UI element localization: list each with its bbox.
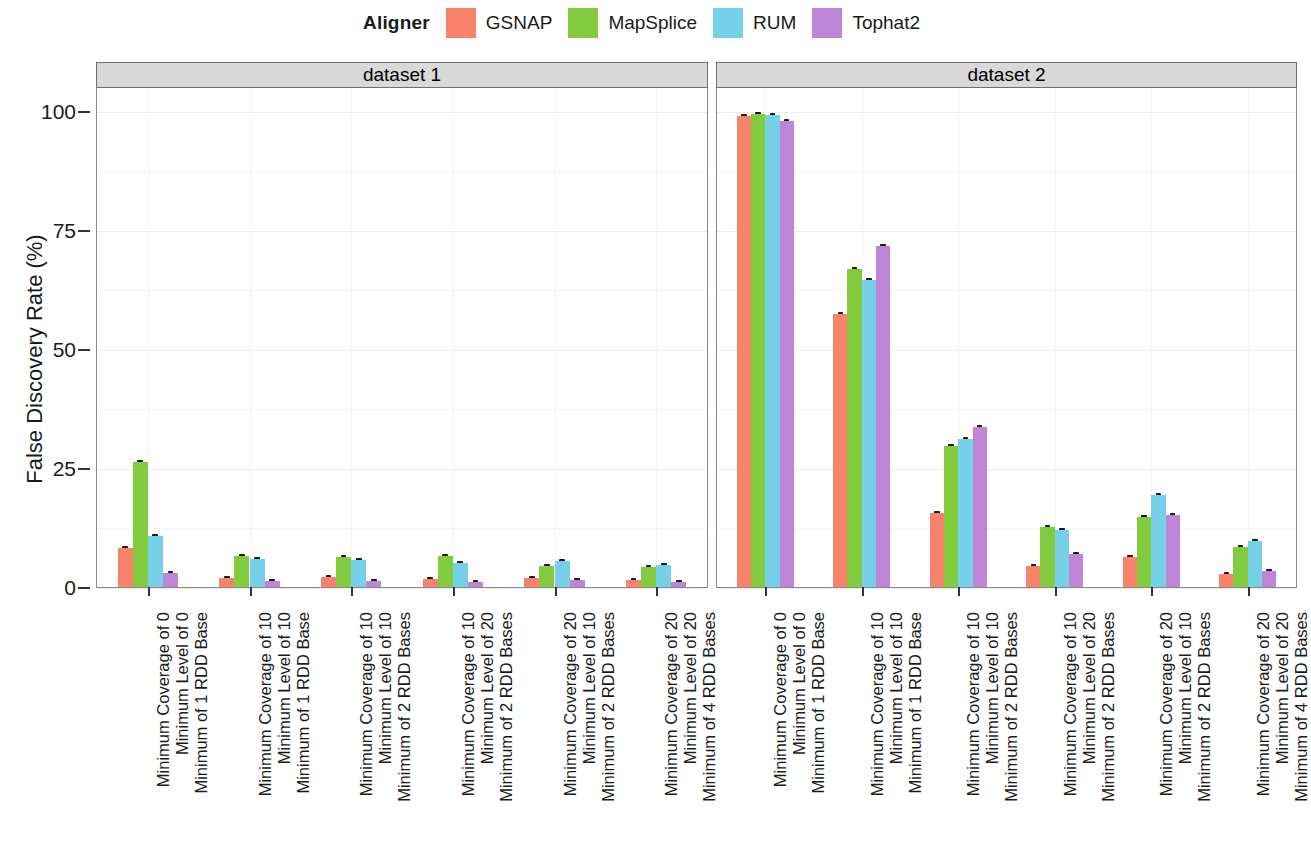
legend-title: Aligner	[363, 12, 430, 34]
x-axis-label-line: Minimum Coverage of 10	[868, 612, 887, 859]
bar-tophat2-5	[1262, 571, 1276, 587]
x-axis-label-1-4: Minimum Coverage of 20Minimum Level of 1…	[1157, 612, 1214, 859]
bar-mapsplice-2	[944, 446, 958, 587]
x-axis-label-line: Minimum Level of 20	[1080, 612, 1099, 859]
x-axis-label-0-4: Minimum Coverage of 20Minimum Level of 1…	[561, 612, 618, 859]
x-tick-mark-3	[453, 587, 455, 596]
x-axis-label-line: Minimum Level of 20	[478, 612, 497, 859]
x-axis-label-line: Minimum Level of 10	[275, 612, 294, 859]
x-tick-mark-0	[765, 587, 767, 596]
bar-mapsplice-5	[641, 567, 656, 587]
legend-label-mapsplice: MapSplice	[608, 12, 697, 34]
bar-gsnap-2	[930, 513, 944, 587]
x-axis-label-line: Minimum Coverage of 10	[357, 612, 376, 859]
bar-gsnap-5	[1219, 574, 1233, 587]
y-tick-mark-50	[78, 349, 90, 351]
y-tick-mark-0	[78, 587, 90, 589]
panel-dataset-1: dataset 1	[96, 46, 708, 606]
bar-rum-2	[351, 560, 366, 587]
gridline-x-5	[656, 88, 657, 587]
gridline-x-2	[351, 88, 352, 587]
x-axis-label-line: Minimum Coverage of 10	[964, 612, 983, 859]
x-axis-label-line: Minimum of 2 RDD Bases	[395, 612, 414, 859]
gridline-y-minor-87.5	[717, 171, 1296, 172]
panel-body-dataset-2	[716, 88, 1297, 588]
gridline-y-minor-37.5	[717, 409, 1296, 410]
legend-entry-gsnap[interactable]: GSNAP	[446, 8, 553, 38]
chart: False Discovery Rate (%) 0255075100 data…	[0, 46, 1299, 859]
x-axis-label-line: Minimum Coverage of 20	[662, 612, 681, 859]
x-axis-label-line: Minimum Level of 10	[887, 612, 906, 859]
x-tick-mark-1	[862, 587, 864, 596]
facet-panels: dataset 1 dataset 2	[96, 46, 1297, 606]
bar-mapsplice-2	[336, 557, 351, 587]
x-tick-mark-2	[351, 587, 353, 596]
bar-tophat2-5	[671, 582, 686, 587]
gridline-y-50	[97, 350, 707, 351]
x-axis-label-line: Minimum Coverage of 0	[154, 612, 173, 859]
gridline-x-3	[453, 88, 454, 587]
bar-rum-2	[958, 439, 972, 587]
bar-rum-5	[656, 565, 671, 587]
x-axis-label-line: Minimum Coverage of 10	[1061, 612, 1080, 859]
bar-tophat2-4	[570, 580, 585, 587]
x-axis-label-line: Minimum of 2 RDD Bases	[1002, 612, 1021, 859]
legend-entry-mapsplice[interactable]: MapSplice	[568, 8, 697, 38]
x-axis-label-1-1: Minimum Coverage of 10Minimum Level of 1…	[868, 612, 925, 859]
legend-swatch-tophat2	[812, 8, 842, 38]
bar-gsnap-4	[1123, 557, 1137, 587]
y-tick-label-100: 100	[41, 100, 76, 124]
x-axis-label-line: Minimum of 1 RDD Base	[809, 612, 828, 859]
bar-mapsplice-3	[1040, 527, 1054, 587]
bar-tophat2-2	[973, 427, 987, 587]
y-tick-mark-100	[78, 111, 90, 113]
x-axis-label-0-0: Minimum Coverage of 0Minimum Level of 0M…	[154, 612, 211, 859]
x-axis-label-0-1: Minimum Coverage of 10Minimum Level of 1…	[256, 612, 313, 859]
bar-gsnap-2	[321, 577, 336, 587]
x-axis-label-1-2: Minimum Coverage of 10Minimum Level of 1…	[964, 612, 1021, 859]
bar-rum-4	[1151, 495, 1165, 587]
bar-gsnap-0	[737, 116, 751, 587]
bar-tophat2-2	[366, 581, 381, 587]
x-axis-label-1-3: Minimum Coverage of 10Minimum Level of 2…	[1061, 612, 1118, 859]
bar-rum-1	[250, 559, 265, 587]
y-axis-ticks: 0255075100	[0, 46, 96, 606]
y-tick-mark-75	[78, 230, 90, 232]
gridline-y-75	[717, 231, 1296, 232]
panel-dataset-2: dataset 2	[716, 46, 1297, 606]
bar-mapsplice-3	[438, 556, 453, 587]
legend: Aligner GSNAP MapSplice RUM Tophat2	[0, 0, 1299, 46]
x-axis-label-line: Minimum Level of 0	[790, 612, 809, 859]
bar-tophat2-3	[468, 582, 483, 587]
x-axis-label-line: Minimum Level of 10	[580, 612, 599, 859]
panel-strip-dataset-2: dataset 2	[716, 62, 1297, 88]
x-axis-label-line: Minimum Coverage of 10	[459, 612, 478, 859]
gridline-y-minor-37.5	[97, 409, 707, 410]
legend-swatch-gsnap	[446, 8, 476, 38]
bar-gsnap-0	[118, 548, 133, 587]
plot-area-dataset-2	[717, 88, 1296, 587]
bar-gsnap-4	[524, 578, 539, 587]
x-tick-mark-0	[148, 587, 150, 596]
x-axis-label-line: Minimum of 2 RDD Bases	[599, 612, 618, 859]
gridline-y-0	[97, 588, 707, 589]
x-tick-mark-5	[1248, 587, 1250, 596]
gridline-x-0	[148, 88, 149, 587]
legend-swatch-rum	[713, 8, 743, 38]
x-tick-mark-2	[958, 587, 960, 596]
plot-area-dataset-1	[97, 88, 707, 587]
panel-strip-dataset-1: dataset 1	[96, 62, 708, 88]
bar-rum-0	[148, 536, 163, 587]
gridline-y-50	[717, 350, 1296, 351]
bar-mapsplice-0	[751, 114, 765, 587]
panel-spacer	[708, 46, 716, 606]
x-axis-label-line: Minimum Level of 10	[1176, 612, 1195, 859]
x-axis-label-line: Minimum of 2 RDD Bases	[497, 612, 516, 859]
legend-entry-rum[interactable]: RUM	[713, 8, 796, 38]
legend-entry-tophat2[interactable]: Tophat2	[812, 8, 920, 38]
bar-tophat2-0	[163, 573, 178, 587]
x-tick-mark-3	[1055, 587, 1057, 596]
bar-tophat2-0	[780, 121, 794, 587]
legend-swatch-mapsplice	[568, 8, 598, 38]
x-axis-label-line: Minimum of 2 RDD Bases	[1195, 612, 1214, 859]
